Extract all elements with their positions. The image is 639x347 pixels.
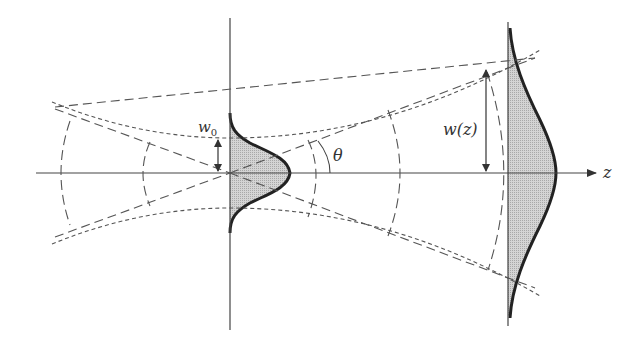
asymptotes bbox=[55, 58, 535, 107]
gaussian-beam-diagram bbox=[0, 0, 639, 347]
theta-label: θ bbox=[333, 146, 343, 165]
waist-label: w0 bbox=[198, 118, 217, 138]
beam-radius-label: w(z) bbox=[443, 120, 478, 139]
theta-arc bbox=[318, 141, 330, 173]
z-axis-label: z bbox=[603, 163, 611, 182]
